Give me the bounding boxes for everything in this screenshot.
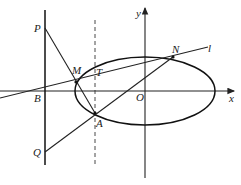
label-b: B bbox=[34, 92, 41, 104]
label-t: T bbox=[96, 66, 103, 78]
label-a: A bbox=[95, 117, 103, 129]
label-x: x bbox=[228, 92, 234, 104]
label-y: y bbox=[135, 7, 141, 19]
point-a bbox=[93, 111, 96, 114]
label-l: l bbox=[208, 42, 211, 54]
label-n: N bbox=[171, 43, 180, 55]
label-q: Q bbox=[33, 146, 41, 158]
geometry-figure: P M T N l y x B O A Q bbox=[0, 0, 241, 185]
label-p: P bbox=[33, 22, 41, 34]
segment-pa bbox=[45, 28, 95, 113]
label-m: M bbox=[71, 64, 82, 76]
point-n bbox=[171, 55, 174, 58]
point-m bbox=[74, 80, 77, 83]
label-o: O bbox=[136, 91, 144, 103]
